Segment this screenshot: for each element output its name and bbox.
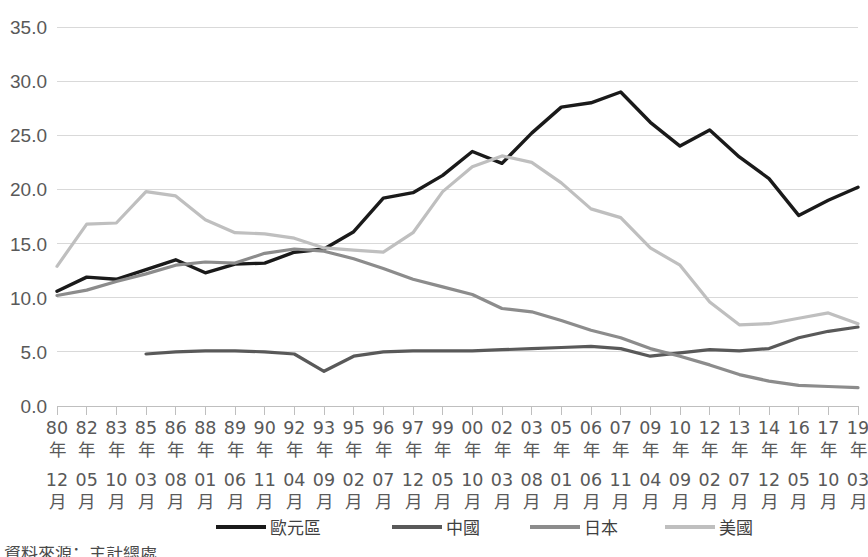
x-axis-tick-label: 03 (521, 418, 543, 438)
legend-label[interactable]: 中國 (446, 518, 480, 538)
x-axis-tick-unit: 年 (434, 440, 451, 460)
x-axis-tick-label: 12 (402, 470, 424, 490)
x-axis-tick-unit: 月 (583, 492, 600, 512)
legend-label[interactable]: 美國 (719, 518, 753, 538)
x-axis-tick-label: 09 (639, 418, 661, 438)
x-axis-tick-label: 92 (283, 418, 305, 438)
x-axis-tick-label: 03 (847, 470, 868, 490)
series-line (146, 327, 858, 371)
x-axis-tick-unit: 年 (256, 440, 273, 460)
x-axis-tick-label: 14 (758, 418, 780, 438)
x-axis-tick-unit: 年 (375, 440, 392, 460)
x-axis-tick-unit: 年 (138, 440, 155, 460)
x-axis-tick-label: 88 (194, 418, 216, 438)
x-axis-tick-label: 05 (76, 470, 98, 490)
x-axis-tick-label: 12 (46, 470, 68, 490)
x-axis-tick-label: 02 (699, 470, 721, 490)
x-axis-tick-label: 01 (194, 470, 216, 490)
x-axis-tick-label: 83 (105, 418, 127, 438)
x-axis-tick-label: 82 (76, 418, 98, 438)
x-axis-tick-unit: 年 (227, 440, 244, 460)
x-axis-tick-unit: 月 (701, 492, 718, 512)
x-axis-tick-unit: 年 (197, 440, 214, 460)
x-axis-tick-unit: 月 (672, 492, 689, 512)
x-axis-tick-label: 02 (343, 470, 365, 490)
x-axis-tick-label: 03 (135, 470, 157, 490)
x-axis-tick-label: 10 (105, 470, 127, 490)
x-axis-tick-unit: 年 (820, 440, 837, 460)
x-axis-tick-label: 02 (491, 418, 513, 438)
x-axis-tick-unit: 月 (375, 492, 392, 512)
x-axis-tick-unit: 月 (197, 492, 214, 512)
x-axis-tick-unit: 年 (523, 440, 540, 460)
x-axis-tick-unit: 月 (523, 492, 540, 512)
y-axis-tick-label: 0.0 (21, 396, 47, 417)
x-axis-tick-unit: 年 (701, 440, 718, 460)
x-axis-tick-unit: 年 (49, 440, 66, 460)
x-axis-tick-label: 93 (313, 418, 335, 438)
x-axis-tick-unit: 年 (642, 440, 659, 460)
x-axis-tick-label: 99 (432, 418, 454, 438)
x-axis-tick-label: 10 (461, 470, 483, 490)
x-axis-tick-unit: 月 (731, 492, 748, 512)
x-axis-tick-label: 07 (372, 470, 394, 490)
legend-label[interactable]: 歐元區 (270, 518, 321, 538)
x-axis-tick-label: 00 (461, 418, 483, 438)
footnote-clipped: 資料來源：主計總處 (4, 546, 304, 557)
x-axis-tick-label: 95 (343, 418, 365, 438)
footnote-text: 資料來源：主計總處 (4, 546, 304, 557)
x-axis-tick-unit: 月 (405, 492, 422, 512)
x-axis-tick-label: 10 (817, 470, 839, 490)
x-axis-tick-label: 13 (728, 418, 750, 438)
chart-legend: 歐元區中國日本美國 (216, 518, 753, 538)
x-axis-tick-unit: 月 (494, 492, 511, 512)
x-axis-tick-label: 05 (550, 418, 572, 438)
y-axis-tick-label: 20.0 (10, 179, 47, 200)
x-axis-tick-label: 09 (313, 470, 335, 490)
x-axis-tick-label: 06 (580, 418, 602, 438)
x-axis-tick-unit: 月 (108, 492, 125, 512)
x-axis-tick-label: 12 (758, 470, 780, 490)
x-axis-tick-label: 11 (610, 470, 632, 490)
x-axis-tick-unit: 年 (553, 440, 570, 460)
x-axis-tick-label: 12 (699, 418, 721, 438)
x-axis-tick-unit: 年 (761, 440, 778, 460)
x-axis-tick-unit: 年 (405, 440, 422, 460)
x-axis-tick-label: 16 (788, 418, 810, 438)
x-axis-tick-label: 80 (46, 418, 68, 438)
x-axis-tick-unit: 月 (820, 492, 837, 512)
x-axis-tick-unit: 月 (256, 492, 273, 512)
x-axis-tick-label: 11 (254, 470, 276, 490)
x-axis-tick-label: 03 (491, 470, 513, 490)
x-axis-tick-unit: 月 (612, 492, 629, 512)
x-axis-tick-unit: 月 (761, 492, 778, 512)
x-axis-tick-unit: 月 (286, 492, 303, 512)
legend-label[interactable]: 日本 (584, 518, 618, 538)
x-axis-tick-unit: 月 (138, 492, 155, 512)
x-axis-tick-unit: 月 (316, 492, 333, 512)
x-axis-tick-labels: 80年12月82年05月83年10月85年03月86年08月88年01月89年0… (46, 418, 868, 512)
x-axis-tick-unit: 月 (850, 492, 867, 512)
x-axis-tick-unit: 年 (583, 440, 600, 460)
x-axis-tick-label: 04 (639, 470, 661, 490)
y-axis-tick-label: 30.0 (10, 71, 47, 92)
x-axis-tick-unit: 年 (78, 440, 95, 460)
x-axis (57, 406, 858, 415)
x-axis-tick-unit: 月 (49, 492, 66, 512)
x-axis-tick-unit: 年 (286, 440, 303, 460)
x-axis-tick-unit: 年 (731, 440, 748, 460)
x-axis-tick-unit: 年 (612, 440, 629, 460)
x-axis-tick-unit: 年 (345, 440, 362, 460)
x-axis-tick-label: 96 (372, 418, 394, 438)
x-axis-tick-unit: 年 (850, 440, 867, 460)
x-axis-tick-unit: 月 (434, 492, 451, 512)
x-axis-tick-label: 10 (669, 418, 691, 438)
x-axis-tick-label: 85 (135, 418, 157, 438)
x-axis-tick-unit: 月 (227, 492, 244, 512)
x-axis-tick-label: 01 (550, 470, 572, 490)
series-layer (57, 92, 858, 388)
x-axis-tick-label: 86 (165, 418, 187, 438)
x-axis-tick-label: 89 (224, 418, 246, 438)
x-axis-tick-unit: 年 (464, 440, 481, 460)
x-axis-tick-unit: 年 (790, 440, 807, 460)
